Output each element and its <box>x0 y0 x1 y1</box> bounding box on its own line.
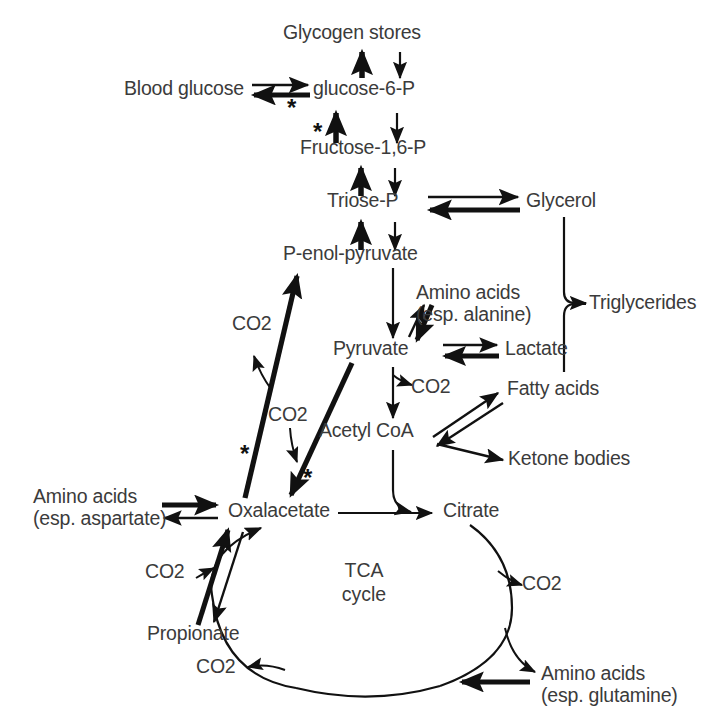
node-amino-acids-aspartate: Amino acids (esp. aspartate) <box>33 485 166 529</box>
node-ketone-bodies: Ketone bodies <box>508 448 630 470</box>
node-triglycerides: Triglycerides <box>589 292 696 314</box>
arrow-pyruvate-co2-release <box>393 375 412 385</box>
amino-acids-aspartate-line1: Amino acids <box>33 485 166 507</box>
co2-label-tca-bottom: CO2 <box>196 655 236 678</box>
node-glycogen-stores: Glycogen stores <box>283 22 421 44</box>
asterisk-marker-blood-glucose: * <box>287 96 296 120</box>
co2-label-pyruvate-carboxylation: CO2 <box>268 403 308 426</box>
node-amino-acids-alanine: Amino acids (esp. alanine) <box>416 281 531 325</box>
arrow-glycerol-to-triglycerides <box>564 217 586 303</box>
amino-acids-glutamine-line2: (esp. glutamine) <box>541 684 678 706</box>
co2-label-pep-release: CO2 <box>232 312 272 335</box>
node-oxalacetate: Oxalacetate <box>228 500 330 522</box>
edge-group-glycogen <box>362 52 400 78</box>
node-blood-glucose: Blood glucose <box>124 78 244 100</box>
tca-cycle-line2: cycle <box>325 582 403 606</box>
asterisk-marker-pyruvate-to-oaa: * <box>303 466 312 490</box>
node-acetyl-coa: Acetyl CoA <box>319 420 413 442</box>
co2-label-pyruvate-to-acetylcoa: CO2 <box>411 375 451 398</box>
tca-arc-right-citrate-down <box>440 525 512 686</box>
arrow-acetylcoa-to-ketones <box>437 444 503 460</box>
node-lactate: Lactate <box>505 338 568 360</box>
amino-acids-alanine-line1: Amino acids <box>416 281 531 303</box>
arrow-oaa-pep-co2-release <box>254 356 271 389</box>
tca-arc-bottom <box>296 686 440 697</box>
edge-group-propionate-oaa <box>196 530 243 625</box>
arrow-acetylcoa-to-fattyacids <box>433 393 498 437</box>
arrow-tca-to-glutamine-co2 <box>505 628 535 672</box>
node-p-enol-pyruvate: P-enol-pyruvate <box>283 243 418 265</box>
node-fatty-acids: Fatty acids <box>507 378 599 400</box>
edge-group-blood-glucose <box>252 85 310 95</box>
tca-cycle-line1: TCA <box>325 558 403 582</box>
node-amino-acids-glutamine: Amino acids (esp. glutamine) <box>541 662 678 706</box>
edge-group-triose-glycerol <box>428 197 520 210</box>
arrow-oaa-to-propionate <box>214 532 243 622</box>
edge-group-pyruvate-lactate <box>443 345 499 356</box>
arrow-acetylcoa-to-citrate <box>393 450 411 512</box>
edge-group-aminoacids-oaa <box>162 505 218 518</box>
node-pyruvate: Pyruvate <box>333 338 408 360</box>
asterisk-marker-oaa-to-pep: * <box>240 442 249 466</box>
asterisk-marker-fructose16p: * <box>313 120 322 144</box>
node-glycerol: Glycerol <box>526 190 596 212</box>
node-triose-p: Triose-P <box>327 190 398 212</box>
co2-label-propionate-entry: CO2 <box>145 560 185 583</box>
node-glucose-6-p: glucose-6-P <box>313 78 415 100</box>
edge-group-oaa-to-pep <box>245 276 297 498</box>
arrow-oaa-co2-consume <box>290 428 297 462</box>
metabolic-pathway-diagram: Glycogen stores Blood glucose glucose-6-… <box>0 0 714 714</box>
node-citrate: Citrate <box>443 500 499 522</box>
amino-acids-glutamine-line1: Amino acids <box>541 662 678 684</box>
edge-group-acetylcoa-fattyacids <box>433 393 503 446</box>
amino-acids-alanine-line2: (esp. alanine) <box>416 303 531 325</box>
amino-acids-aspartate-line2: (esp. aspartate) <box>33 507 166 529</box>
arrow-tca-bottom-co2 <box>248 666 285 670</box>
node-tca-cycle: TCA cycle <box>325 558 403 607</box>
arrow-oaa-to-pep <box>245 276 297 498</box>
arrow-fattyacids-to-acetylcoa <box>437 403 503 446</box>
arrow-propionate-to-oaa <box>198 530 228 625</box>
node-propionate: Propionate <box>147 623 239 645</box>
co2-label-tca-right: CO2 <box>522 572 562 595</box>
